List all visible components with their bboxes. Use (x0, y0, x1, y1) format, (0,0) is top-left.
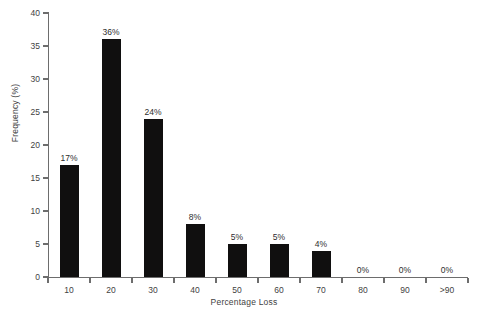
bar-value-label: 8% (172, 212, 218, 222)
bar-value-label: 24% (130, 107, 176, 117)
y-axis-tick-label: 40 (10, 8, 40, 18)
bar-value-label: 0% (424, 265, 470, 275)
x-axis-tick (173, 278, 174, 283)
x-axis-title: Percentage Loss (0, 297, 488, 307)
bar-value-label: 36% (88, 27, 134, 37)
bar (228, 244, 247, 277)
bar-value-label: 0% (340, 265, 386, 275)
y-axis-tick-label: 25 (10, 107, 40, 117)
y-axis-tick (43, 45, 49, 46)
y-axis-tick (43, 12, 49, 13)
bar (144, 119, 163, 277)
bar (270, 244, 289, 277)
x-axis-tick (215, 278, 216, 283)
x-axis-tick (89, 278, 90, 283)
x-axis-tick (467, 278, 468, 283)
bar (186, 224, 205, 277)
bar-value-label: 5% (214, 232, 260, 242)
y-axis-tick (43, 78, 49, 79)
bar-value-label: 4% (298, 239, 344, 249)
x-axis-tick (341, 278, 342, 283)
x-axis-tick-label: >90 (417, 285, 477, 295)
y-axis-tick (43, 111, 49, 112)
x-axis-tick (383, 278, 384, 283)
bar-value-label: 5% (256, 232, 302, 242)
y-axis-tick (43, 144, 49, 145)
bar-chart: Frequency (%) 0510152025303540 102030405… (0, 0, 488, 317)
bar (102, 39, 121, 277)
x-axis-tick (47, 278, 48, 283)
bar-value-label: 17% (46, 153, 92, 163)
y-axis-tick-label: 30 (10, 74, 40, 84)
y-axis-tick-label: 15 (10, 173, 40, 183)
x-axis-tick (131, 278, 132, 283)
y-axis-tick-label: 20 (10, 140, 40, 150)
y-axis-tick (43, 210, 49, 211)
y-axis-tick (43, 177, 49, 178)
bar (60, 165, 79, 277)
x-axis-tick (299, 278, 300, 283)
y-axis-tick (43, 243, 49, 244)
y-axis-tick-label: 35 (10, 41, 40, 51)
x-axis-tick (425, 278, 426, 283)
y-axis-tick-label: 5 (10, 239, 40, 249)
y-axis-tick-label: 0 (10, 272, 40, 282)
bar (312, 251, 331, 277)
y-axis-tick-label: 10 (10, 206, 40, 216)
x-axis-tick (257, 278, 258, 283)
bar-value-label: 0% (382, 265, 428, 275)
